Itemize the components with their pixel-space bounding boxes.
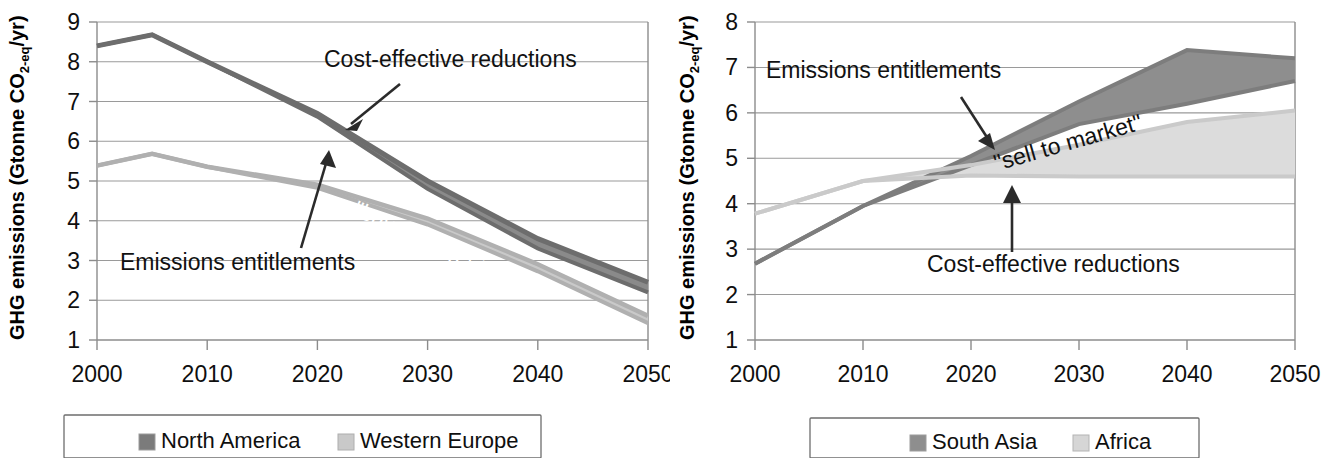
right-xtick-2050: 2050 xyxy=(1269,361,1320,387)
right-annotation-emissions-entitlements: Emissions entitlements xyxy=(766,57,1001,83)
left-ytick-8: 8 xyxy=(67,49,80,75)
left-ytick-3: 3 xyxy=(67,248,80,274)
svg-text:GHG emissions (Gtonne CO2-eq/y: GHG emissions (Gtonne CO2-eq/yr) xyxy=(676,15,702,340)
right-annotation-cost-effective-reductions: Cost-effective reductions xyxy=(927,251,1180,277)
left-ytick-6: 6 xyxy=(67,128,80,154)
right-y-axis-title: GHG emissions (Gtonne CO2-eq/yr) xyxy=(676,15,702,340)
left-ytick-4: 4 xyxy=(67,208,80,234)
right-y-axis-title-main: GHG emissions (Gtonne CO xyxy=(676,73,698,340)
figure-two-panel-ghg-emissions: GHG emissions (Gtonne CO2-eq/yr) xyxy=(0,0,1323,458)
right-legend-swatch-africa xyxy=(1073,435,1089,451)
left-ytick-9: 9 xyxy=(67,9,80,35)
right-ytick-4: 4 xyxy=(725,191,738,217)
left-y-axis-title: GHG emissions (Gtonne CO2-eq/yr) xyxy=(6,15,32,340)
left-ytick-2: 2 xyxy=(67,287,80,313)
left-chart-svg: GHG emissions (Gtonne CO2-eq/yr) xyxy=(0,0,670,458)
right-xtick-2010: 2010 xyxy=(837,361,888,387)
right-ytick-1: 1 xyxy=(725,327,738,353)
left-legend-label-western-europe: Western Europe xyxy=(360,428,519,453)
left-arrow-emissions-entitlements xyxy=(301,150,336,248)
right-ytick-8: 8 xyxy=(725,9,738,35)
right-legend-swatch-south-asia xyxy=(910,435,926,451)
left-xtick-2010: 2010 xyxy=(182,361,233,387)
left-ytick-7: 7 xyxy=(67,89,80,115)
left-legend-label-north-america: North America xyxy=(161,428,301,453)
chart-panel-left: GHG emissions (Gtonne CO2-eq/yr) xyxy=(0,0,670,458)
right-ytick-7: 7 xyxy=(725,54,738,80)
left-xtick-2050: 2050 xyxy=(622,361,670,387)
right-xtick-2000: 2000 xyxy=(729,361,780,387)
right-chart-svg: GHG emissions (Gtonne CO2-eq/yr) xyxy=(670,0,1323,458)
right-y-axis-title-sub: 2-eq xyxy=(687,47,702,74)
right-ytick-5: 5 xyxy=(725,145,738,171)
left-line-western-europe-entitlements xyxy=(97,154,648,323)
right-legend-label-south-asia: South Asia xyxy=(932,429,1038,454)
right-legend-label-africa: Africa xyxy=(1095,429,1152,454)
right-xtick-2020: 2020 xyxy=(945,361,996,387)
right-y-axis-title-tail: /yr) xyxy=(676,15,698,46)
left-xtick-2030: 2030 xyxy=(402,361,453,387)
left-y-axis-title-sub: 2-eq xyxy=(17,47,32,74)
left-legend-swatch-north-america xyxy=(139,434,155,450)
right-line-africa xyxy=(755,176,1295,214)
left-line-western-europe xyxy=(97,154,648,316)
right-legend-item-south-asia[interactable]: South Asia xyxy=(910,429,1038,454)
right-ytick-3: 3 xyxy=(725,236,738,262)
right-arrow-cost-effective-reductions xyxy=(1003,185,1021,252)
chart-panel-right: GHG emissions (Gtonne CO2-eq/yr) xyxy=(670,0,1323,458)
right-xtick-2030: 2030 xyxy=(1053,361,1104,387)
right-x-tick-labels: 2000 2010 2020 2030 2040 2050 xyxy=(729,361,1320,387)
left-xtick-2040: 2040 xyxy=(512,361,563,387)
right-arrow-emissions-entitlements xyxy=(961,97,995,150)
left-legend-swatch-western-europe xyxy=(338,434,354,450)
left-arrow-cost-effective-reductions xyxy=(345,84,400,131)
left-y-axis-title-main: GHG emissions (Gtonne CO xyxy=(6,73,28,340)
left-y-tick-labels: 9 8 7 6 5 4 3 2 1 xyxy=(67,9,80,353)
left-ytick-1: 1 xyxy=(67,327,80,353)
left-xtick-2000: 2000 xyxy=(71,361,122,387)
left-y-axis-title-tail: /yr) xyxy=(6,15,28,46)
left-y-tickmarks xyxy=(89,22,97,340)
left-ytick-5: 5 xyxy=(67,168,80,194)
left-series-band-western-europe xyxy=(97,154,648,323)
right-y-tickmarks xyxy=(747,22,755,340)
right-x-tickmarks xyxy=(755,340,1295,350)
left-annotation-emissions-entitlements: Emissions entitlements xyxy=(120,249,355,275)
left-x-tickmarks xyxy=(97,340,648,350)
svg-text:GHG emissions (Gtonne CO2-eq/y: GHG emissions (Gtonne CO2-eq/yr) xyxy=(6,15,32,340)
right-ytick-6: 6 xyxy=(725,100,738,126)
left-xtick-2020: 2020 xyxy=(292,361,343,387)
left-x-tick-labels: 2000 2010 2020 2030 2040 2050 xyxy=(71,361,670,387)
left-legend-item-north-america[interactable]: North America xyxy=(139,428,301,453)
right-xtick-2040: 2040 xyxy=(1161,361,1212,387)
right-y-tick-labels: 8 7 6 5 4 3 2 1 xyxy=(725,9,738,353)
right-legend-item-africa[interactable]: Africa xyxy=(1073,429,1152,454)
left-legend-item-western-europe[interactable]: Western Europe xyxy=(338,428,519,453)
left-annotation-cost-effective-reductions: Cost-effective reductions xyxy=(324,46,577,72)
right-ytick-2: 2 xyxy=(725,282,738,308)
